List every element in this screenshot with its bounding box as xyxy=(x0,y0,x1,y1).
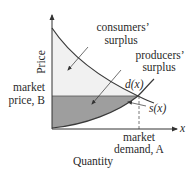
y-axis-label: Price xyxy=(35,50,47,74)
consumers-surplus-label-line2: surplus xyxy=(104,34,138,47)
x-axis-symbol: x xyxy=(179,122,186,134)
market-demand-label-line1: market xyxy=(123,131,156,143)
supply-curve-label: s(x) xyxy=(149,102,166,115)
surplus-diagram: Price x consumers’ surplus producers’ su… xyxy=(0,0,193,175)
demand-curve-label: d(x) xyxy=(125,78,144,91)
market-price-label-line2: price, B xyxy=(9,94,46,107)
producers-surplus-label-line2: surplus xyxy=(142,61,176,74)
consumers-surplus-label-line1: consumers’ xyxy=(96,21,149,33)
market-demand-label-line2: demand, A xyxy=(114,143,165,156)
supply-label-pointer xyxy=(128,102,146,106)
market-price-label-line1: market xyxy=(13,81,46,93)
x-axis-label: Quantity xyxy=(73,155,113,168)
